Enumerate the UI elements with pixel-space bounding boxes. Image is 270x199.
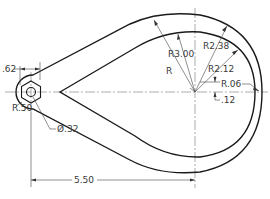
dim-hub-radius: R.50	[12, 103, 33, 113]
dim-outer-radius: R3.00	[168, 49, 195, 59]
dim-radius-unlabeled: R	[166, 66, 172, 76]
dim-offset: .12	[221, 95, 235, 105]
dim-hole-diameter: Ø.32	[57, 124, 78, 134]
dim-hub-width: .62	[2, 64, 16, 74]
outer-profile	[16, 14, 262, 173]
dim-rim-inner-radius: R2.12	[208, 64, 234, 74]
dim-rim-outer-radius: R2.38	[203, 41, 230, 51]
dim-center-distance: 5.50	[74, 175, 94, 185]
dim-fillet-radius: R.06	[221, 79, 242, 89]
technical-drawing: .62 R.50 Ø.32 5.50 R3.00 R R2.38 R2.12 R…	[0, 0, 270, 199]
